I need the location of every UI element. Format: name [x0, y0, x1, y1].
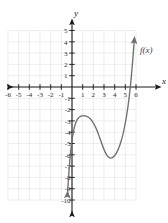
y-tick-label: 2: [64, 61, 68, 69]
y-axis-label: y: [73, 8, 78, 18]
x-tick-label: -5: [16, 91, 22, 99]
x-tick-label: 1: [81, 91, 85, 99]
plot-area: -6 -5 -4 -3 -2 -1 1 2 3 4 5 6 5 4 3 2 1 …: [0, 0, 168, 223]
y-tick-label: -10: [61, 197, 71, 205]
y-tick-label: -3: [65, 118, 71, 126]
x-tick-label: 4: [113, 91, 117, 99]
x-tick-label: -4: [26, 91, 32, 99]
coordinate-plane-graph: -6 -5 -4 -3 -2 -1 1 2 3 4 5 6 5 4 3 2 1 …: [0, 0, 168, 223]
x-tick-label: 2: [92, 91, 96, 99]
y-tick-label: 3: [64, 50, 68, 58]
x-tick-label: 3: [102, 91, 106, 99]
x-tick-label: -6: [5, 91, 11, 99]
canvas-background: [0, 0, 168, 223]
function-annotation-label: f(x): [140, 45, 153, 55]
y-tick-label: -2: [65, 106, 71, 114]
x-tick-label: -2: [48, 91, 54, 99]
y-tick-label: 1: [64, 72, 68, 80]
x-axis-label: x: [161, 76, 166, 86]
y-tick-label: -4: [65, 129, 71, 137]
x-tick-label: -3: [37, 91, 43, 99]
y-tick-label: -5: [65, 140, 71, 148]
y-tick-label: 5: [64, 27, 68, 35]
y-tick-label: -1: [65, 95, 71, 103]
x-tick-label: 6: [134, 91, 138, 99]
x-tick-label: 5: [124, 91, 128, 99]
y-tick-label: 4: [64, 39, 68, 47]
